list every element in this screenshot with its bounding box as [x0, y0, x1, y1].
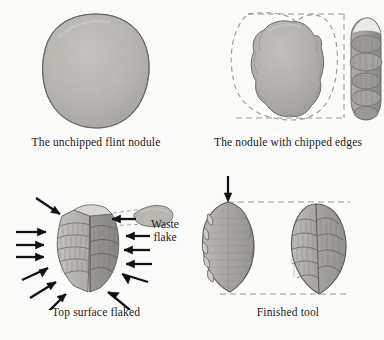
arrow-bottom-right-1 — [122, 274, 148, 284]
panel-chipped-edges: The nodule with chipped edges — [192, 0, 384, 170]
waste-flake-label: Waste flake — [138, 218, 192, 244]
arrow-right-3 — [126, 260, 152, 268]
arrow-right-2 — [124, 246, 150, 254]
caption-top-surface-flaked: Top surface flaked — [0, 306, 192, 318]
arrow-down-apex — [224, 176, 232, 202]
arrow-bottom-left-1 — [30, 282, 56, 298]
arrow-left-4 — [22, 268, 48, 280]
chipped-edges-illustration — [192, 0, 384, 140]
waste-flake-label-line1: Waste — [151, 218, 179, 230]
caption-unchipped-nodule: The unchipped flint nodule — [0, 136, 192, 148]
caption-finished-tool: Finished tool — [192, 306, 384, 318]
chipped-core-side-view — [350, 18, 382, 120]
flint-knapping-diagram: The unchipped flint nodule — [0, 0, 384, 340]
panel-finished-tool: Finished tool — [192, 170, 384, 340]
unchipped-nodule-illustration — [0, 0, 192, 140]
finished-tool-side-view — [291, 204, 346, 294]
panel-unchipped-nodule: The unchipped flint nodule — [0, 0, 192, 170]
chipped-core-face-view — [251, 21, 323, 117]
finished-tool-face-view — [202, 202, 254, 292]
panel-top-surface-flaked: Waste flake Top surface flaked — [0, 170, 192, 340]
arrow-left-2 — [16, 241, 44, 249]
arrow-left-1 — [16, 228, 46, 236]
finished-tool-illustration — [192, 170, 384, 310]
caption-chipped-edges: The nodule with chipped edges — [192, 136, 384, 148]
flaked-core-body — [57, 205, 119, 292]
nodule-body — [43, 14, 150, 128]
arrow-top-left — [36, 198, 60, 214]
arrow-left-3 — [16, 253, 44, 261]
waste-flake-label-line2: flake — [154, 231, 177, 243]
